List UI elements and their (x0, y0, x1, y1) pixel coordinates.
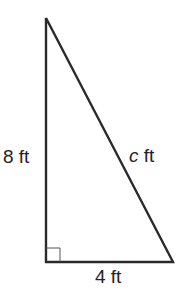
triangle-svg: 8 ft c ft 4 ft (0, 0, 177, 308)
horizontal-leg-label: 4 ft (95, 266, 122, 287)
hypotenuse-label: c ft (129, 145, 155, 166)
hypotenuse-unit: ft (139, 145, 156, 166)
hypotenuse-variable: c (129, 145, 139, 166)
right-triangle-diagram: 8 ft c ft 4 ft (0, 0, 177, 308)
right-angle-marker (46, 248, 60, 262)
vertical-leg-label: 8 ft (3, 146, 30, 167)
triangle-shape (46, 18, 173, 262)
